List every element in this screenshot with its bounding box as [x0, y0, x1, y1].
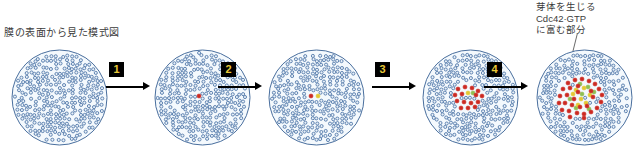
red-dot	[578, 105, 582, 109]
red-dot	[561, 87, 565, 91]
red-dot	[460, 92, 464, 96]
red-dot	[576, 90, 580, 94]
arrow-head-icon	[255, 82, 262, 90]
red-dot	[462, 100, 466, 104]
cell-stage-3	[266, 47, 367, 148]
red-dot	[573, 78, 577, 82]
red-dot	[575, 111, 579, 115]
red-dot	[455, 99, 459, 103]
arrow-step-number-4: 4	[487, 62, 502, 77]
red-dot	[560, 108, 564, 112]
annotation-line-1: 芽体を生じる	[536, 1, 596, 13]
arrow-shaft	[106, 86, 143, 88]
arrow-step-number-3: 3	[375, 62, 390, 77]
yellow-dot	[579, 97, 583, 101]
red-dot	[557, 101, 561, 105]
red-dot	[469, 101, 473, 105]
yellow-dot	[316, 94, 320, 98]
red-dot	[566, 81, 570, 85]
red-dot	[582, 112, 586, 116]
red-dot	[567, 109, 571, 113]
red-dot	[473, 105, 477, 109]
arrow-shaft	[218, 86, 255, 88]
arrow-shaft	[484, 86, 521, 88]
yellow-dot	[571, 92, 575, 96]
yellow-dot	[582, 86, 586, 90]
annotation-line-3: に富む部分	[536, 24, 596, 36]
red-dot	[589, 89, 593, 93]
figure-canvas: 膜の表面から見た模式図 芽体を生じる Cdc42·GTP に富む部分 1234	[0, 0, 642, 153]
red-dot	[582, 116, 586, 120]
red-dot	[476, 100, 480, 104]
red-dot	[593, 82, 597, 86]
red-dot	[453, 93, 457, 97]
red-dot	[476, 89, 480, 93]
red-dot	[568, 115, 572, 119]
arrow-head-icon	[409, 82, 416, 90]
arrow-head-icon	[143, 82, 150, 90]
red-dot	[570, 103, 574, 107]
red-dot	[558, 94, 562, 98]
cell-stage-5	[534, 47, 635, 148]
red-dot	[466, 106, 470, 110]
green-dot	[586, 85, 590, 89]
red-dot	[565, 93, 569, 97]
green-dot	[580, 92, 584, 96]
cell-stage-1	[9, 47, 110, 148]
red-dot	[572, 97, 576, 101]
red-dot	[463, 85, 467, 89]
annotation-cdc42-rich-region: 芽体を生じる Cdc42·GTP に富む部分	[536, 1, 596, 36]
red-dot	[595, 106, 599, 110]
arrow-head-icon	[521, 82, 528, 90]
red-dot	[456, 87, 460, 91]
green-dot	[568, 97, 572, 101]
arrow-step-1: 1	[106, 62, 150, 96]
yellow-dot	[466, 91, 470, 95]
arrow-shaft	[372, 86, 409, 88]
red-dot	[568, 86, 572, 90]
red-dot	[470, 86, 474, 90]
red-dot	[197, 94, 201, 98]
caption-membrane-surface: 膜の表面から見た模式図	[4, 24, 120, 39]
annotation-line-2: Cdc42·GTP	[536, 13, 596, 25]
red-dot	[563, 101, 567, 105]
red-dot	[576, 84, 580, 88]
red-dot	[597, 87, 601, 91]
arrow-step-4: 4	[484, 62, 528, 96]
red-dot	[309, 94, 313, 98]
red-dot	[600, 93, 604, 97]
arrow-step-3: 3	[372, 62, 416, 96]
red-dot	[587, 79, 591, 83]
arrow-step-number-1: 1	[109, 62, 124, 77]
red-dot	[589, 110, 593, 114]
red-dot	[585, 104, 589, 108]
arrow-step-2: 2	[218, 62, 262, 96]
red-dot	[580, 77, 584, 81]
red-dot	[599, 100, 603, 104]
red-dot	[474, 93, 478, 97]
red-dot	[591, 95, 595, 99]
red-dot	[459, 106, 463, 110]
arrow-step-number-2: 2	[221, 62, 236, 77]
